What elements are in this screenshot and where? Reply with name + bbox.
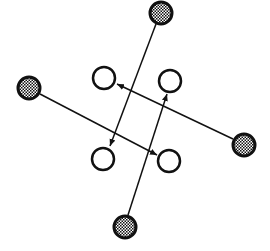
arrow-top-to-lower-left	[110, 24, 156, 146]
hatched-node-right	[233, 134, 255, 156]
hatched-node-left	[18, 77, 40, 99]
open-node-lower-right	[158, 150, 180, 172]
hatched-node-bottom	[114, 216, 136, 238]
arrow-left-to-lower-right	[40, 94, 157, 155]
nodes-group	[18, 2, 255, 238]
open-node-upper-right	[159, 70, 181, 92]
pinwheel-diagram	[0, 0, 270, 251]
edges-group	[40, 24, 233, 215]
arrow-right-to-upper-left	[117, 84, 233, 139]
hatched-node-top	[150, 2, 172, 24]
open-node-lower-left	[92, 148, 114, 170]
open-node-upper-left	[93, 67, 115, 89]
